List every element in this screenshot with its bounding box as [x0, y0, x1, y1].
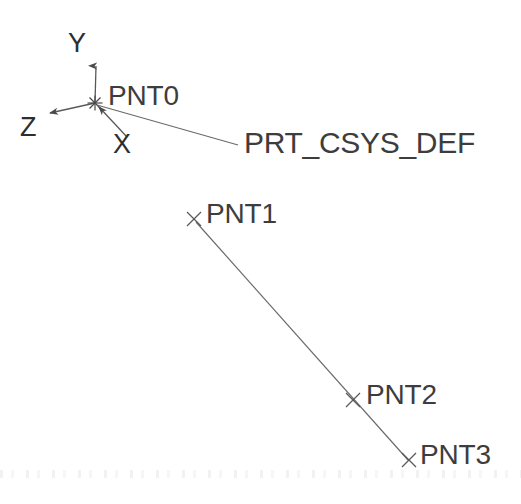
- axis-label-x: X: [113, 131, 131, 158]
- axis-label-y: Y: [68, 30, 86, 57]
- datum-point-marker-pnt1[interactable]: [187, 212, 201, 226]
- axis-label-z: Z: [20, 114, 37, 141]
- datum-point-label-pnt2[interactable]: PNT2: [366, 381, 437, 409]
- datum-point-label-pnt1[interactable]: PNT1: [206, 200, 277, 228]
- datum-point-label-pnt3[interactable]: PNT3: [420, 441, 491, 469]
- csys-axis-z: [50, 103, 95, 113]
- cad-viewport: [0, 0, 521, 504]
- csys-origin-marker: [88, 96, 103, 111]
- datum-point-marker-pnt2[interactable]: [346, 393, 360, 407]
- datum-point-marker-pnt3[interactable]: [402, 453, 416, 467]
- datum-curve-pnt1-pnt3[interactable]: [196, 222, 408, 460]
- datum-point-label-pnt0[interactable]: PNT0: [108, 82, 179, 110]
- csys-name-label[interactable]: PRT_CSYS_DEF: [244, 128, 475, 158]
